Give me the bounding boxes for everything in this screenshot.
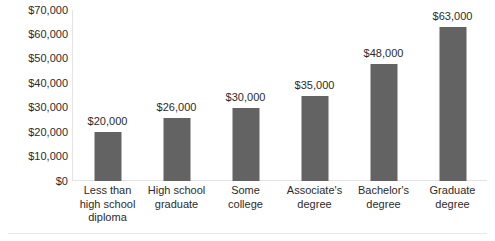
bar-group: $20,000 [73,10,142,181]
category-label-line: degree [418,198,487,212]
bar[interactable] [232,108,259,181]
y-axis: $70,000$60,000$50,000$40,000$30,000$20,0… [0,0,68,186]
bar-value-label: $30,000 [226,92,266,103]
bar-value-label: $35,000 [295,80,335,91]
y-axis-tick-label: $30,000 [0,102,68,113]
bar-group: $48,000 [349,10,418,181]
y-axis-tick-label: $70,000 [0,5,68,16]
bar-value-label: $26,000 [157,102,197,113]
bar[interactable] [439,27,466,181]
bar-chart: $70,000$60,000$50,000$40,000$30,000$20,0… [0,0,495,241]
x-axis-category-label: Graduatedegree [418,184,487,211]
bar-group: $30,000 [211,10,280,181]
x-axis-category-label: Associate'sdegree [280,184,349,211]
category-label-line: Some [211,184,280,198]
plot-area: $20,000$26,000$30,000$35,000$48,000$63,0… [73,10,487,181]
category-label-line: Bachelor's [349,184,418,198]
x-axis-category-label: Somecollege [211,184,280,211]
bar[interactable] [301,96,328,182]
y-axis-tick-label: $40,000 [0,78,68,89]
y-axis-tick-label: $20,000 [0,127,68,138]
x-axis-category-labels: Less thanhigh schooldiplomaHigh schoolgr… [73,184,487,232]
bar[interactable] [370,64,397,181]
y-axis-tick-label: $60,000 [0,29,68,40]
bar-value-label: $48,000 [364,48,404,59]
category-label-line: High school [142,184,211,198]
bar-value-label: $20,000 [88,116,128,127]
category-label-line: diploma [73,211,142,225]
bar-group: $63,000 [418,10,487,181]
y-axis-tick-label: $10,000 [0,151,68,162]
category-label-line: degree [280,198,349,212]
category-label-line: Associate's [280,184,349,198]
bar-group: $35,000 [280,10,349,181]
bar[interactable] [163,118,190,182]
category-label-line: Graduate [418,184,487,198]
x-axis-category-label: High schoolgraduate [142,184,211,211]
bar-value-label: $63,000 [433,11,473,22]
x-axis-category-label: Less thanhigh schooldiploma [73,184,142,225]
x-axis-category-label: Bachelor'sdegree [349,184,418,211]
category-label-line: graduate [142,198,211,212]
bar-group: $26,000 [142,10,211,181]
footer-divider [8,233,487,234]
category-label-line: degree [349,198,418,212]
category-label-line: Less than [73,184,142,198]
y-axis-tick-label: $0 [0,176,68,187]
bar[interactable] [94,132,121,181]
category-label-line: high school [73,198,142,212]
y-axis-tick-label: $50,000 [0,53,68,64]
category-label-line: college [211,198,280,212]
